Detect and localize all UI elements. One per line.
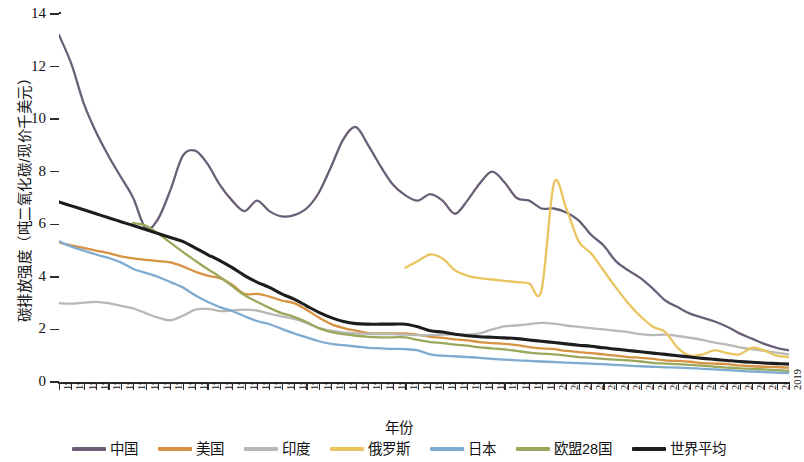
x-axis-tick [71, 383, 72, 390]
legend-swatch-icon [632, 447, 666, 451]
x-axis-tick [84, 383, 85, 390]
x-axis-tick [752, 383, 753, 390]
y-axis-tick [50, 276, 59, 277]
x-axis-tick [146, 383, 147, 390]
x-axis-tick [628, 383, 629, 390]
x-axis-tick [616, 383, 617, 390]
x-axis-tick [715, 383, 716, 390]
x-axis-tick [504, 383, 505, 390]
x-axis-tick [220, 383, 221, 390]
x-axis-tick [133, 383, 134, 390]
legend-label: 印度 [282, 442, 310, 457]
x-axis-tick [245, 383, 246, 390]
x-axis-tick [443, 383, 444, 390]
legend-label: 俄罗斯 [368, 442, 410, 457]
legend-label: 日本 [468, 442, 496, 457]
y-axis-tick [50, 66, 59, 67]
x-axis-tick [641, 383, 642, 390]
y-axis-tick-label: 6 [0, 216, 46, 231]
x-axis-tick [702, 383, 703, 390]
y-axis-tick [50, 171, 59, 172]
x-axis-tick [158, 383, 159, 390]
legend-label: 美国 [196, 442, 224, 457]
legend-label: 中国 [110, 442, 138, 457]
legend-swatch-icon [430, 447, 464, 450]
x-axis-tick [542, 383, 543, 390]
y-axis-tick-label: 2 [0, 321, 46, 336]
x-axis-tick [492, 383, 493, 390]
legend-label: 世界平均 [670, 442, 726, 457]
x-axis-tick [566, 383, 567, 390]
x-axis-tick [455, 383, 456, 390]
series-line-欧盟28国 [133, 223, 789, 371]
legend-item-俄罗斯[interactable]: 俄罗斯 [330, 442, 410, 457]
x-axis-tick [294, 383, 295, 390]
y-axis-tick [50, 13, 59, 14]
x-axis-tick [121, 383, 122, 390]
y-axis-tick-label: 12 [0, 59, 46, 74]
x-axis-tick [418, 383, 419, 390]
legend-swatch-icon [158, 447, 192, 450]
x-axis-tick [195, 383, 196, 390]
x-axis-tick [232, 383, 233, 390]
x-axis-tick [740, 383, 741, 390]
y-axis-tick-label: 14 [0, 6, 46, 21]
y-axis-tick [50, 381, 59, 382]
y-axis-tick [50, 329, 59, 330]
x-axis-tick [665, 383, 666, 390]
x-axis-tick [430, 383, 431, 390]
x-axis-tick [789, 383, 790, 390]
x-axis-tick [381, 383, 382, 390]
series-line-中国 [59, 35, 789, 350]
legend-item-欧盟28国[interactable]: 欧盟28国 [516, 442, 612, 457]
legend-swatch-icon [244, 447, 278, 450]
x-axis-tick [282, 383, 283, 390]
x-axis-tick [368, 383, 369, 390]
x-axis-tick [207, 383, 208, 390]
plot-area [59, 14, 789, 382]
x-axis-tick [690, 383, 691, 390]
y-axis-tick [50, 224, 59, 225]
x-axis-tick [764, 383, 765, 390]
x-axis-tick [603, 383, 604, 390]
x-axis-tick [393, 383, 394, 390]
y-axis-tick-label: 10 [0, 111, 46, 126]
y-axis-tick-label: 4 [0, 269, 46, 284]
x-axis-tick [59, 383, 60, 390]
x-axis-title: 年份 [0, 416, 798, 437]
x-axis-tick [306, 383, 307, 390]
x-axis-tick [591, 383, 592, 390]
x-axis-tick [653, 383, 654, 390]
x-axis-tick [183, 383, 184, 390]
legend-swatch-icon [516, 447, 550, 450]
x-axis-tick [579, 383, 580, 390]
x-axis-tick [356, 383, 357, 390]
y-axis-title: 碳排放强度（吨二氧化碳/现价千美元） [13, 32, 34, 362]
legend-swatch-icon [72, 447, 106, 450]
legend-swatch-icon [330, 447, 364, 450]
legend-item-美国[interactable]: 美国 [158, 442, 224, 457]
chart-legend: 中国美国印度俄罗斯日本欧盟28国世界平均 [0, 438, 798, 460]
x-axis-tick [678, 383, 679, 390]
x-axis-tick [257, 383, 258, 390]
y-axis-tick-label: 0 [0, 374, 46, 389]
x-axis-tick [108, 383, 109, 390]
legend-item-印度[interactable]: 印度 [244, 442, 310, 457]
series-line-世界平均 [59, 202, 789, 364]
x-axis-tick [529, 383, 530, 390]
legend-item-世界平均[interactable]: 世界平均 [632, 442, 726, 457]
x-axis-tick [331, 383, 332, 390]
x-axis-tick [777, 383, 778, 390]
legend-label: 欧盟28国 [554, 442, 612, 457]
x-axis-tick-label: 2019 [793, 369, 804, 390]
y-axis-tick [50, 118, 59, 119]
legend-item-日本[interactable]: 日本 [430, 442, 496, 457]
legend-item-中国[interactable]: 中国 [72, 442, 138, 457]
x-axis-tick [405, 383, 406, 390]
x-axis-tick [517, 383, 518, 390]
x-axis-tick [344, 383, 345, 390]
x-axis-tick [727, 383, 728, 390]
x-axis-tick [467, 383, 468, 390]
x-axis-tick [554, 383, 555, 390]
